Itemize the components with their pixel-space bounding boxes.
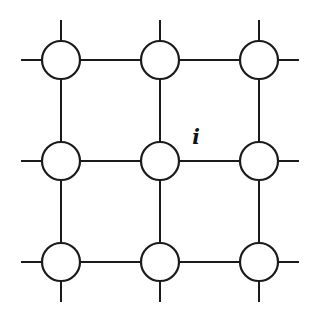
lattice-node-2-0 bbox=[42, 243, 80, 281]
lattice-diagram: i bbox=[0, 0, 320, 318]
lattice-node-0-1 bbox=[141, 41, 179, 79]
lattice-node-2-1 bbox=[141, 243, 179, 281]
lattice-nodes bbox=[42, 41, 278, 281]
site-label-i: i bbox=[192, 125, 200, 149]
lattice-node-0-2 bbox=[240, 41, 278, 79]
lattice-node-1-0 bbox=[42, 142, 80, 180]
lattice-node-1-2 bbox=[240, 142, 278, 180]
lattice-node-2-2 bbox=[240, 243, 278, 281]
lattice-node-0-0 bbox=[42, 41, 80, 79]
lattice-node-1-1 bbox=[141, 142, 179, 180]
